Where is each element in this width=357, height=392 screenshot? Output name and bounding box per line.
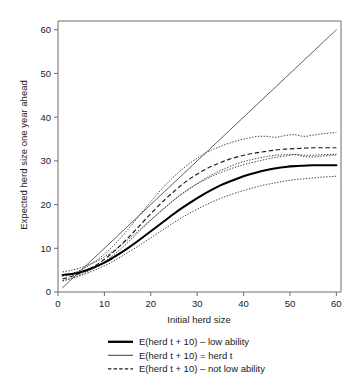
x-tick-label-0: 0 (55, 298, 60, 309)
legend-label-1: E(herd t + 10) = herd t (139, 350, 233, 361)
expected-herd-size-chart: 0102030405060 0102030405060 Initial herd… (0, 0, 357, 392)
figure-caption-strip (0, 378, 357, 392)
legend-label-0: E(herd t + 10) – low ability (139, 336, 249, 347)
y-tick-label-3: 30 (40, 155, 51, 166)
y-tick-label-1: 10 (40, 243, 51, 254)
figure-container: 0102030405060 0102030405060 Initial herd… (0, 0, 357, 392)
y-tick-label-6: 60 (40, 24, 51, 35)
x-tick-label-4: 40 (238, 298, 249, 309)
legend-label-2: E(herd t + 10) – not low ability (139, 363, 265, 374)
x-tick-label-1: 10 (99, 298, 110, 309)
x-tick-label-5: 50 (285, 298, 296, 309)
x-axis-title: Initial herd size (167, 314, 230, 325)
x-tick-label-6: 60 (331, 298, 342, 309)
y-tick-label-0: 0 (46, 286, 51, 297)
y-tick-label-4: 40 (40, 112, 51, 123)
y-tick-label-5: 50 (40, 68, 51, 79)
y-tick-label-2: 20 (40, 199, 51, 210)
x-tick-label-2: 20 (145, 298, 156, 309)
y-axis-title: Expected herd size one year ahead (18, 80, 29, 229)
x-tick-label-3: 30 (192, 298, 203, 309)
